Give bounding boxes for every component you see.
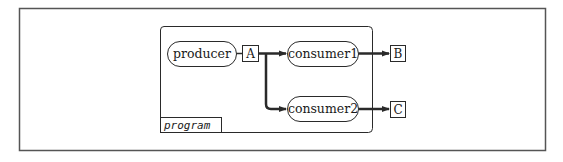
channel-C[interactable]: C — [391, 102, 406, 118]
channel-B-label: B — [394, 47, 403, 61]
outer-frame — [20, 9, 546, 151]
process-consumer1[interactable]: consumer1 — [288, 42, 359, 67]
process-producer[interactable]: producer — [168, 42, 237, 67]
channel-A[interactable]: A — [243, 46, 259, 62]
process-consumer2-label: consumer2 — [288, 101, 358, 116]
diagram-canvas: program producer A consumer1 cons — [0, 0, 563, 162]
process-consumer2[interactable]: consumer2 — [288, 97, 359, 122]
dataflow-diagram: program producer A consumer1 cons — [0, 0, 563, 162]
channel-A-label: A — [245, 47, 255, 61]
channel-B[interactable]: B — [391, 46, 406, 62]
program-label: program — [163, 119, 211, 132]
process-producer-label: producer — [173, 46, 231, 61]
process-consumer1-label: consumer1 — [288, 46, 358, 61]
channel-C-label: C — [393, 103, 402, 117]
edge-A-to-consumer2 — [266, 54, 286, 110]
